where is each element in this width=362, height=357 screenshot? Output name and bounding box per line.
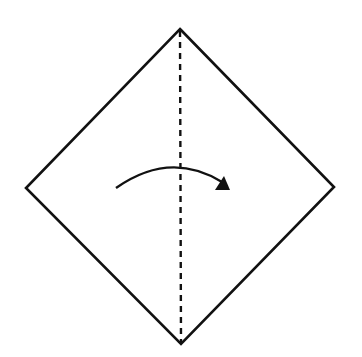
valley-fold-line <box>180 31 181 342</box>
origami-diagram: Square paper rotated as a diamond with a… <box>0 0 362 357</box>
diagram-svg <box>0 0 362 357</box>
